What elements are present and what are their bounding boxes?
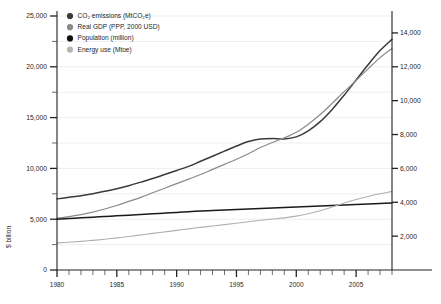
- left-axis-tick-label: 0: [43, 266, 47, 273]
- legend-label-2: Population (million): [78, 34, 134, 42]
- x-axis-tick-label: 1985: [110, 281, 125, 288]
- right-axis-tick-label: 4,000: [400, 199, 417, 206]
- x-axis-tick-label: 2005: [349, 281, 364, 288]
- left-axis-tick-label: 5,000: [30, 216, 47, 223]
- x-axis-tick-label: 2000: [289, 281, 304, 288]
- x-axis-tick-label: 1990: [169, 281, 184, 288]
- legend-marker-1: [67, 24, 73, 30]
- right-axis-tick-label: 12,000: [400, 63, 421, 70]
- legend-marker-0: [67, 13, 73, 19]
- series-line-0: [57, 39, 392, 199]
- series-line-2: [57, 203, 392, 219]
- left-axis-tick-label: 10,000: [26, 165, 47, 172]
- left-axis-tick-label: 25,000: [26, 12, 47, 19]
- right-axis-tick-label: 10,000: [400, 97, 421, 104]
- series-line-3: [57, 191, 392, 242]
- x-axis-tick-label: 1980: [50, 281, 65, 288]
- right-axis-tick-label: 2,000: [400, 233, 417, 240]
- right-axis-tick-label: 8,000: [400, 131, 417, 138]
- left-axis: 05,00010,00015,00020,00025,000: [26, 11, 57, 273]
- left-axis-tick-label: 20,000: [26, 63, 47, 70]
- x-axis: 198019851990199520002005: [50, 270, 432, 288]
- left-axis-title: $ billion: [5, 226, 12, 248]
- legend-label-1: Real GDP (PPP, 2000 USD): [78, 23, 160, 31]
- left-axis-tick-label: 15,000: [26, 114, 47, 121]
- legend-marker-2: [67, 35, 73, 41]
- x-axis-tick-label: 1995: [229, 281, 244, 288]
- right-axis-tick-label: 14,000: [400, 29, 421, 36]
- left-axis-title-label: $ billion: [5, 226, 12, 248]
- legend-marker-3: [67, 47, 73, 53]
- right-axis: 2,0004,0006,0008,00010,00012,00014,000: [392, 11, 421, 270]
- right-axis-tick-label: 6,000: [400, 165, 417, 172]
- chart-container: 05,00010,00015,00020,00025,000 2,0004,00…: [0, 0, 441, 304]
- legend: CO₂ emissions (MtCO₂e)Real GDP (PPP, 200…: [67, 12, 160, 54]
- series-line-1: [57, 49, 392, 219]
- line-chart: 05,00010,00015,00020,00025,000 2,0004,00…: [0, 0, 441, 304]
- legend-label-3: Energy use (Mtoe): [78, 46, 132, 54]
- legend-label-0: CO₂ emissions (MtCO₂e): [78, 12, 151, 20]
- series-group: [57, 39, 392, 243]
